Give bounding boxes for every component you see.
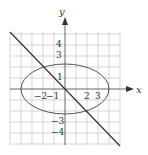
x-tick-neg1: −1	[46, 91, 59, 101]
graph: y x 4 3 1 −3 −4 −2 −1 2 3	[0, 0, 148, 155]
y-axis-label: y	[58, 6, 65, 17]
axes	[10, 22, 128, 145]
y-tick-1: 1	[57, 72, 63, 82]
x-axis-label: x	[136, 84, 142, 95]
x-tick-3: 3	[95, 91, 101, 101]
y-tick-3: 3	[56, 50, 62, 60]
y-axis-arrow-icon	[62, 17, 68, 25]
y-tick-neg3: −3	[51, 116, 65, 126]
x-axis-arrow-icon	[126, 86, 134, 92]
y-tick-neg4: −4	[51, 127, 65, 137]
y-tick-4: 4	[56, 39, 62, 49]
x-tick-2: 2	[84, 91, 90, 101]
